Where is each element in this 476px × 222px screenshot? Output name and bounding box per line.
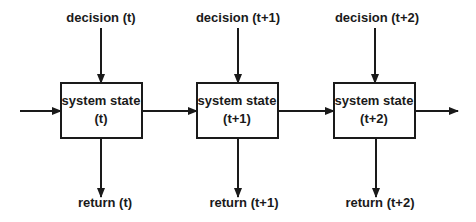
stage-t: decision (t) system state (t) return (t) — [61, 10, 142, 210]
return-label: return (t+2) — [346, 195, 415, 210]
return-label: return (t) — [78, 195, 132, 210]
state-time-label: (t) — [95, 111, 108, 126]
state-label: system state — [198, 93, 277, 108]
state-time-label: (t+2) — [360, 111, 388, 126]
stage-t-plus-1: decision (t+1) system state (t+1) return… — [196, 10, 280, 210]
decision-label: decision (t) — [66, 10, 135, 25]
state-label: system state — [62, 93, 141, 108]
stage-t-plus-2: decision (t+2) system state (t+2) return… — [334, 10, 419, 210]
decision-label: decision (t+1) — [196, 10, 280, 25]
return-label: return (t+1) — [210, 195, 279, 210]
decision-label: decision (t+2) — [335, 10, 419, 25]
state-time-label: (t+1) — [223, 111, 251, 126]
sequential-decision-diagram: decision (t) system state (t) return (t)… — [0, 0, 476, 222]
state-label: system state — [335, 93, 414, 108]
